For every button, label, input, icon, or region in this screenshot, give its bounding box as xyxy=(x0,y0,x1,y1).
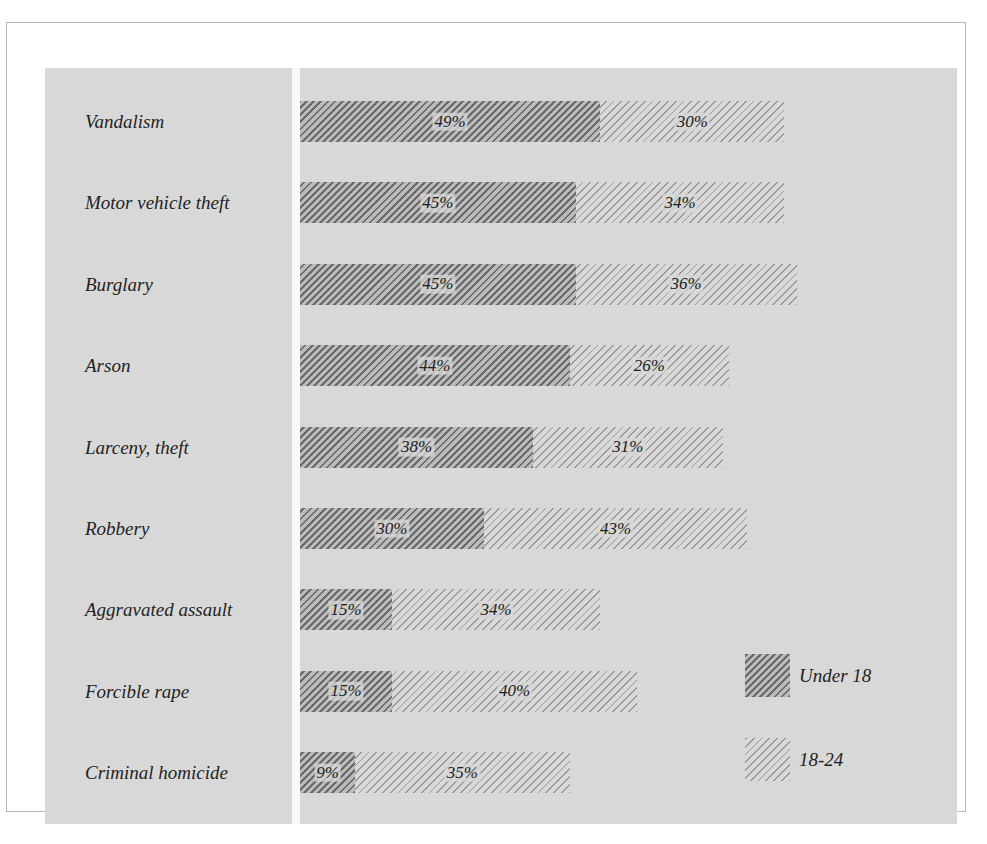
chart-panel: VandalismMotor vehicle theftBurglaryArso… xyxy=(45,68,957,824)
bar-value-label: 45% xyxy=(420,275,455,294)
bar-segment-under-18[interactable]: 15% xyxy=(300,589,392,630)
bar-segment-under-18[interactable]: 30% xyxy=(300,508,484,549)
bar-segment-18-24[interactable]: 35% xyxy=(355,752,570,793)
legend-item[interactable]: 18-24 xyxy=(745,738,843,781)
legend-item[interactable]: Under 18 xyxy=(745,654,871,697)
category-label: Vandalism xyxy=(85,101,274,142)
bar-value-label: 43% xyxy=(598,519,633,538)
bar-value-label: 30% xyxy=(374,519,409,538)
bar-value-label: 49% xyxy=(433,112,468,131)
bar-segment-under-18[interactable]: 9% xyxy=(300,752,355,793)
category-label-row: Aggravated assault xyxy=(45,589,292,630)
18-24-swatch xyxy=(745,738,790,781)
bar-segment-under-18[interactable]: 45% xyxy=(300,264,576,305)
under-18-swatch xyxy=(745,654,790,697)
bar-value-label: 15% xyxy=(328,682,363,701)
stacked-bar[interactable]: 45%36% xyxy=(300,264,797,305)
bar-value-label: 34% xyxy=(479,601,514,620)
page-frame: VandalismMotor vehicle theftBurglaryArso… xyxy=(6,22,966,812)
bar-value-label: 30% xyxy=(675,112,710,131)
bar-value-label: 38% xyxy=(399,438,434,457)
stacked-bar[interactable]: 30%43% xyxy=(300,508,747,549)
category-label-row: Motor vehicle theft xyxy=(45,182,292,223)
stacked-bar[interactable]: 38%31% xyxy=(300,427,723,468)
category-label: Criminal homicide xyxy=(85,752,274,793)
legend-label: Under 18 xyxy=(799,665,871,687)
bar-segment-18-24[interactable]: 43% xyxy=(484,508,748,549)
bar-value-label: 34% xyxy=(662,194,697,213)
category-label: Larceny, theft xyxy=(85,427,274,468)
bar-value-label: 31% xyxy=(610,438,645,457)
bar-value-label: 36% xyxy=(669,275,704,294)
plot-area: 49%30%45%34%45%36%44%26%38%31%30%43%15%3… xyxy=(300,68,957,824)
vertical-axis-line xyxy=(292,68,300,824)
legend-label: 18-24 xyxy=(799,749,843,771)
bar-value-label: 35% xyxy=(445,763,480,782)
bar-segment-18-24[interactable]: 26% xyxy=(570,345,729,386)
bar-value-label: 45% xyxy=(420,194,455,213)
bar-segment-under-18[interactable]: 38% xyxy=(300,427,533,468)
category-label: Motor vehicle theft xyxy=(85,182,274,223)
bar-segment-18-24[interactable]: 30% xyxy=(600,101,784,142)
stacked-bar[interactable]: 49%30% xyxy=(300,101,784,142)
category-label: Burglary xyxy=(85,264,274,305)
category-label: Robbery xyxy=(85,508,274,549)
category-label-row: Burglary xyxy=(45,264,292,305)
bar-value-label: 40% xyxy=(497,682,532,701)
bar-segment-18-24[interactable]: 34% xyxy=(392,589,600,630)
bar-segment-18-24[interactable]: 34% xyxy=(576,182,784,223)
stacked-bar[interactable]: 45%34% xyxy=(300,182,784,223)
bar-value-label: 15% xyxy=(328,601,363,620)
bar-value-label: 44% xyxy=(417,356,452,375)
category-label-row: Criminal homicide xyxy=(45,752,292,793)
category-label-row: Forcible rape xyxy=(45,671,292,712)
bar-segment-under-18[interactable]: 44% xyxy=(300,345,570,386)
category-label: Forcible rape xyxy=(85,671,274,712)
bar-segment-under-18[interactable]: 45% xyxy=(300,182,576,223)
bar-segment-18-24[interactable]: 31% xyxy=(533,427,723,468)
stacked-bar[interactable]: 44%26% xyxy=(300,345,729,386)
category-label: Arson xyxy=(85,345,274,386)
bar-segment-18-24[interactable]: 36% xyxy=(576,264,797,305)
stacked-bar[interactable]: 15%34% xyxy=(300,589,600,630)
category-label-row: Robbery xyxy=(45,508,292,549)
bar-segment-under-18[interactable]: 49% xyxy=(300,101,600,142)
stacked-bar[interactable]: 15%40% xyxy=(300,671,637,712)
bar-value-label: 9% xyxy=(314,763,341,782)
bar-value-label: 26% xyxy=(632,356,667,375)
bar-segment-under-18[interactable]: 15% xyxy=(300,671,392,712)
category-label-column: VandalismMotor vehicle theftBurglaryArso… xyxy=(45,68,292,824)
category-label: Aggravated assault xyxy=(85,589,274,630)
stacked-bar[interactable]: 9%35% xyxy=(300,752,570,793)
bar-segment-18-24[interactable]: 40% xyxy=(392,671,637,712)
category-label-row: Larceny, theft xyxy=(45,427,292,468)
category-label-row: Arson xyxy=(45,345,292,386)
category-label-row: Vandalism xyxy=(45,101,292,142)
